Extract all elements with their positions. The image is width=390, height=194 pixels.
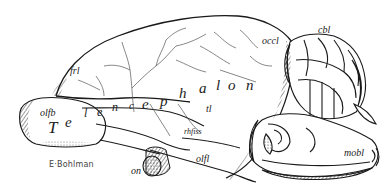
label-olfactory-bulb: olfb [40, 108, 56, 118]
title-letter: T [48, 119, 57, 136]
title-letter: c [129, 100, 134, 111]
label-medulla-oblongata: mobl [344, 148, 364, 158]
label-optic-nerve: on [131, 166, 141, 176]
title-letter: p [160, 94, 168, 109]
brain-illustration: frl occl cbl olfb tl rhfiss olfl on mobl… [0, 0, 390, 194]
title-letter: l [84, 107, 87, 119]
title-letter: n [112, 101, 118, 113]
label-olfactory-lobe: olfl [196, 154, 209, 164]
title-letter: n [246, 78, 254, 93]
label-frontal-lobe: frl [70, 66, 79, 76]
olfactory-bulb [20, 98, 106, 147]
title-letter: o [228, 78, 236, 93]
label-rhinal-fissure: rhfiss [184, 128, 202, 136]
label-cerebellum: cbl [318, 25, 330, 35]
title-letter: e [65, 115, 72, 130]
title-letter: a [199, 81, 207, 96]
title-letter: h [179, 86, 187, 101]
title-letter: e [97, 106, 102, 118]
cerebellum [285, 34, 376, 124]
label-occipital-lobe: occl [262, 36, 279, 46]
label-temporal-lobe: tl [206, 104, 212, 114]
artist-signature: E·Bohlman [49, 160, 94, 169]
title-letter: e [142, 97, 149, 112]
title-letter: l [216, 78, 220, 93]
vessels [78, 28, 272, 136]
optic-nerve [143, 147, 170, 176]
